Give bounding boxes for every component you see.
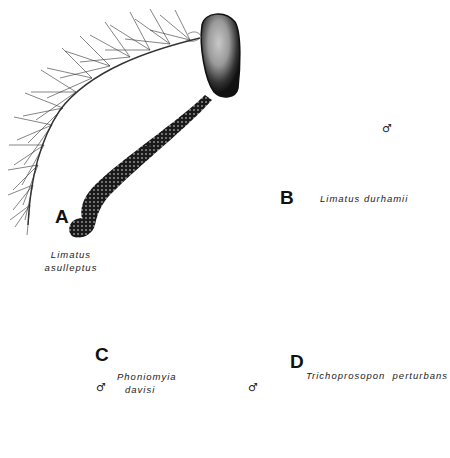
panel-label-c: C <box>95 345 109 364</box>
species-name-b: Limatus durhamii <box>320 192 408 205</box>
male-symbol-a: ♂ <box>142 143 152 154</box>
male-symbol-c: ♂ <box>96 382 106 393</box>
species-genus-a: Limatus <box>36 248 106 261</box>
panel-label-b: B <box>280 188 294 207</box>
species-name-c: Phoniomyia davisi <box>117 370 177 396</box>
illustration-plate <box>0 0 450 458</box>
panel-label-d: D <box>290 352 304 371</box>
panel-label-a: A <box>55 207 69 226</box>
species-epithet-c: davisi <box>117 383 177 396</box>
species-genus-c: Phoniomyia <box>117 370 177 383</box>
palp-a <box>69 95 212 238</box>
male-symbol-b: ♂ <box>382 123 392 134</box>
species-epithet-a: asulleptus <box>36 261 106 274</box>
scape-a <box>201 14 240 97</box>
male-symbol-d: ♂ <box>248 382 258 393</box>
species-name-d: Trichoprosopon perturbans <box>306 369 448 382</box>
panel-a-drawing <box>8 9 240 238</box>
species-name-a: Limatus asulleptus <box>36 248 106 274</box>
